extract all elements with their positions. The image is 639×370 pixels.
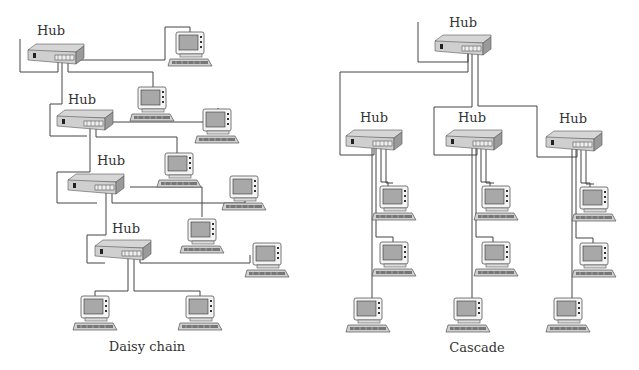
computer-icon	[372, 186, 416, 220]
cascade-hubs: HubHubHubHub	[346, 15, 602, 151]
network-topology-diagram: HubHubHubHub HubHubHubHub Daisy chain Ca…	[0, 0, 639, 370]
computer-icon	[168, 32, 212, 66]
hub-icon	[95, 240, 151, 260]
computer-icon	[73, 296, 117, 330]
computer-icon	[474, 242, 518, 276]
cable-7	[130, 187, 202, 217]
computer-icon	[245, 243, 289, 277]
hub-3: Hub	[95, 221, 151, 260]
cascade-wires	[340, 22, 594, 300]
computer-icon	[195, 109, 239, 143]
computer-icon	[130, 87, 174, 121]
hub-0: Hub	[435, 15, 491, 55]
hub-0: Hub	[28, 23, 84, 64]
hub-label: Hub	[360, 110, 388, 125]
hub-label: Hub	[559, 111, 587, 126]
computer-icon	[572, 243, 616, 277]
cable-10	[140, 252, 250, 263]
computer-icon	[157, 153, 201, 187]
computer-icon	[222, 176, 266, 210]
computer-icon	[372, 242, 416, 276]
hub-2: Hub	[446, 110, 502, 150]
hub-3: Hub	[546, 111, 602, 151]
hub-label: Hub	[68, 92, 96, 107]
cable-2	[68, 57, 153, 87]
computer-icon	[474, 186, 518, 220]
hub-icon	[28, 44, 84, 64]
computer-icon	[546, 298, 590, 332]
cable-1	[73, 27, 190, 60]
hub-icon	[446, 130, 502, 150]
cascade-caption: Cascade	[449, 340, 505, 355]
computer-icon	[178, 296, 222, 330]
hub-icon	[68, 174, 124, 194]
hub-icon	[546, 131, 602, 151]
hub-icon	[346, 130, 402, 150]
hub-icon	[435, 35, 491, 55]
daisy-chain-caption: Daisy chain	[109, 339, 186, 354]
computer-icon	[446, 298, 490, 332]
computer-icon	[180, 219, 224, 253]
hub-label: Hub	[37, 23, 65, 38]
cable-8	[112, 187, 245, 203]
hub-label: Hub	[112, 221, 140, 236]
computer-icon	[572, 187, 616, 221]
computer-icon	[346, 298, 390, 332]
hub-icon	[57, 110, 113, 130]
hub-label: Hub	[458, 110, 486, 125]
hub-label: Hub	[97, 153, 125, 168]
hub-label: Hub	[449, 15, 477, 30]
hub-1: Hub	[57, 92, 113, 130]
hub-2: Hub	[68, 153, 125, 194]
hub-1: Hub	[346, 110, 402, 150]
